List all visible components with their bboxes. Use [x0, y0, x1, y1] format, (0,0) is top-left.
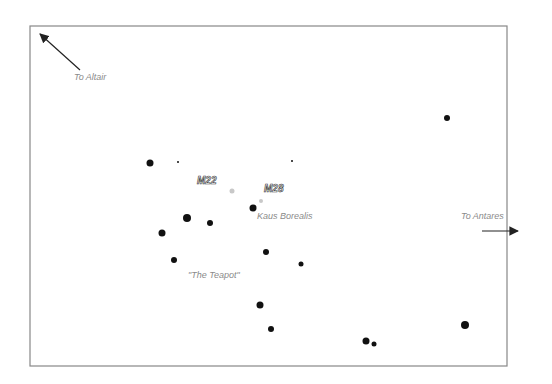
direction-arrows	[40, 34, 518, 231]
star	[263, 249, 269, 255]
star	[147, 160, 154, 167]
star	[372, 342, 377, 347]
label-m28: M28	[264, 183, 284, 194]
star-chart: To Altair To Antares M22 M28 Kaus Boreal…	[0, 0, 552, 384]
label-to-altair: To Altair	[74, 72, 107, 82]
star	[171, 257, 177, 263]
star	[183, 214, 191, 222]
star	[250, 205, 257, 212]
star	[461, 321, 469, 329]
star	[299, 262, 304, 267]
cluster-m22	[230, 189, 235, 194]
star	[257, 302, 264, 309]
star	[444, 115, 450, 121]
star	[291, 160, 293, 162]
stars	[147, 115, 470, 347]
label-kaus-borealis: Kaus Borealis	[257, 211, 313, 221]
star	[268, 326, 274, 332]
globular-clusters	[230, 189, 264, 204]
star	[159, 230, 166, 237]
star	[177, 161, 179, 163]
star	[363, 338, 370, 345]
label-to-antares: To Antares	[461, 211, 504, 221]
cluster-m28	[259, 199, 263, 203]
label-teapot: "The Teapot"	[188, 270, 240, 280]
star	[207, 220, 213, 226]
label-m22: M22	[197, 175, 217, 186]
to-altair-arrow	[40, 34, 80, 70]
